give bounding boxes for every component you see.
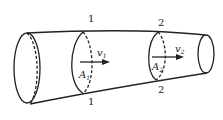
pipe-diagram: 1 1 2 2 v1 v2 A1 A2 <box>0 0 223 120</box>
svg-text:A2: A2 <box>151 61 163 73</box>
velocity-2-subscript: 2 <box>180 48 185 55</box>
pipe-inlet-ellipse <box>14 33 40 103</box>
velocity-1-subscript: 1 <box>103 52 107 59</box>
section-1-bottom-label: 1 <box>88 96 94 107</box>
section-2-top-label: 2 <box>158 17 164 28</box>
section-2-bottom-label: 2 <box>158 84 164 95</box>
pipe-bottom-edge <box>30 73 207 104</box>
area-2-subscript: 2 <box>158 66 163 73</box>
svg-text:A1: A1 <box>78 69 90 81</box>
pipe-outlet-ellipse <box>198 35 214 73</box>
section-1-top-label: 1 <box>88 13 94 24</box>
svg-text:v1: v1 <box>97 47 106 59</box>
area-1-subscript: 1 <box>86 74 90 81</box>
svg-text:v2: v2 <box>175 43 185 55</box>
area-1-label: A <box>78 69 86 80</box>
area-2-label: A <box>151 61 159 72</box>
pipe-top-edge <box>27 31 205 35</box>
section-2-front <box>149 32 158 80</box>
